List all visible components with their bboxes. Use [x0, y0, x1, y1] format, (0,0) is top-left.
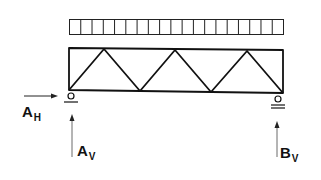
arrow-ah [24, 94, 58, 99]
label-bv-main: B [280, 144, 291, 161]
label-av-main: A [77, 142, 88, 159]
distributed-load [70, 20, 284, 35]
truss [69, 48, 283, 93]
label-ah: AH [22, 104, 41, 123]
label-ah-main: A [22, 103, 33, 120]
arrow-bv [275, 121, 280, 157]
label-av-sub: V [89, 151, 96, 162]
label-bv-sub: V [292, 153, 299, 164]
label-av: AV [77, 143, 96, 162]
truss-diagram [0, 0, 321, 180]
label-bv: BV [280, 145, 299, 164]
roller-support-b [271, 96, 285, 108]
pin-support-a [64, 93, 78, 102]
arrow-av [70, 114, 75, 157]
label-ah-sub: H [34, 112, 41, 123]
